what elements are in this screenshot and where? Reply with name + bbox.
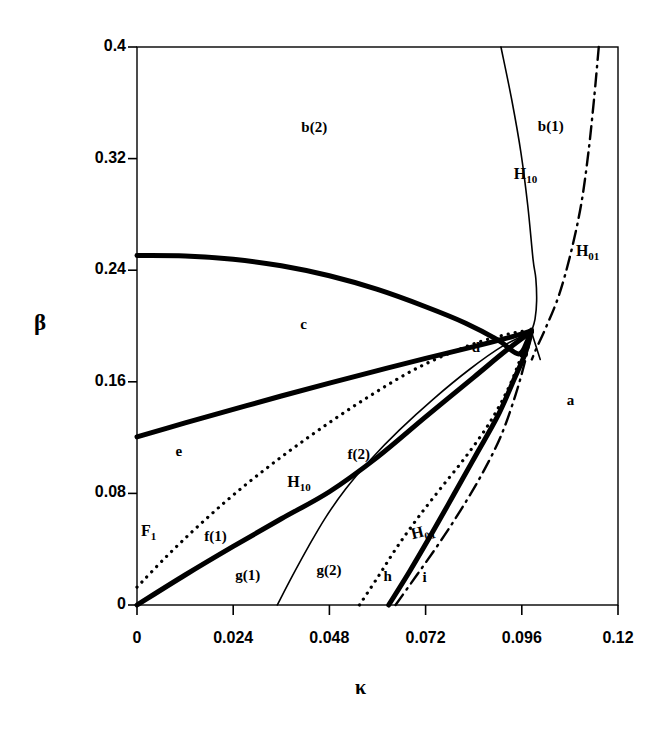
x-tick-label-4: 0.096 (492, 629, 552, 647)
region-label-h: h (384, 568, 392, 585)
bifurcation-curves (137, 47, 599, 605)
y-tick-label-4: 0.32 (66, 149, 126, 167)
x-tick-label-0: 0 (107, 629, 167, 647)
y-tick-label-2: 0.16 (66, 372, 126, 390)
curve-H01-dotted-lower (359, 333, 531, 605)
curve-label-H01-upper: H01 (576, 242, 599, 262)
curve-label-base: H (514, 165, 526, 182)
curve-label-subscript: 1 (151, 530, 157, 542)
curve-label-H10-lower: H10 (287, 473, 310, 493)
region-label-g1: g(1) (235, 567, 260, 584)
region-label-g2: g(2) (317, 562, 342, 579)
curve-label-F1: F1 (141, 522, 156, 542)
curve-label-base: F (141, 522, 151, 539)
y-tick-label-5: 0.4 (66, 37, 126, 55)
curve-H01-dashdot-upper (532, 47, 599, 359)
curve-label-subscript: 10 (526, 174, 537, 186)
region-label-a: a (567, 392, 575, 409)
region-label-f2: f(2) (347, 446, 370, 463)
curve-label-base: H (576, 242, 588, 259)
region-label-i: i (422, 569, 426, 586)
curve-H10-upper-thin (501, 47, 537, 332)
y-tick-label-0: 0 (66, 595, 126, 613)
x-tick-label-3: 0.072 (396, 629, 456, 647)
x-tick-label-2: 0.048 (299, 629, 359, 647)
x-tick-label-5: 0.12 (588, 629, 648, 647)
y-axis-title: β (34, 310, 46, 336)
curve-label-H10-upper: H10 (514, 165, 537, 185)
plot-canvas (0, 0, 667, 734)
region-label-b2: b(2) (301, 119, 327, 136)
region-label-c: c (300, 316, 307, 333)
curve-label-subscript: 01 (588, 250, 599, 262)
curve-label-base: H (287, 473, 299, 490)
region-label-e: e (175, 443, 182, 460)
y-tick-label-1: 0.08 (66, 483, 126, 501)
curve-label-subscript: 10 (300, 481, 311, 493)
bifurcation-diagram-figure: β κ 00.080.160.240.320.4 00.0240.0480.07… (0, 0, 667, 734)
x-axis-title: κ (355, 676, 366, 699)
region-label-b1: b(1) (538, 118, 564, 135)
y-tick-label-3: 0.24 (66, 260, 126, 278)
region-label-d: d (472, 339, 480, 356)
x-tick-label-1: 0.024 (203, 629, 263, 647)
curve-H10-lower-thin (277, 332, 531, 605)
region-label-f1: f(1) (204, 528, 227, 545)
